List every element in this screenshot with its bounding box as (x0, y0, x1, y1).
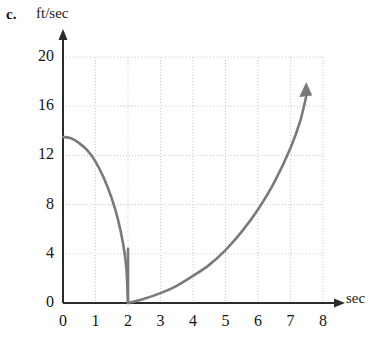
y-tick-label: 8 (20, 195, 54, 213)
x-tick-label: 5 (216, 312, 236, 330)
x-axis-arrowhead-icon (334, 299, 345, 308)
x-axis-unit-label: sec (346, 290, 365, 307)
y-tick-label: 16 (20, 96, 54, 114)
part-label: c. (6, 6, 17, 23)
y-tick-label: 20 (20, 47, 54, 65)
axes (59, 29, 346, 308)
y-tick-label: 4 (20, 244, 54, 262)
x-tick-label: 2 (118, 312, 138, 330)
x-tick-label: 7 (281, 312, 301, 330)
curve-ascending-branch (128, 94, 307, 303)
y-axis-unit-label: ft/sec (36, 5, 68, 22)
x-tick-label: 8 (313, 312, 333, 330)
plot-canvas (0, 0, 381, 341)
x-tick-label: 1 (86, 312, 106, 330)
x-tick-label: 4 (183, 312, 203, 330)
x-tick-label: 6 (248, 312, 268, 330)
y-axis-arrowhead-icon (59, 29, 68, 40)
data-curves (63, 82, 312, 303)
x-tick-label: 0 (53, 312, 73, 330)
y-tick-label: 12 (20, 145, 54, 163)
y-tick-label: 0 (20, 293, 54, 311)
gridlines (63, 57, 323, 303)
curve-arrowhead-icon (299, 82, 312, 97)
x-tick-label: 3 (151, 312, 171, 330)
velocity-time-figure: c. ft/sec sec 048121620 012345678 (0, 0, 381, 341)
